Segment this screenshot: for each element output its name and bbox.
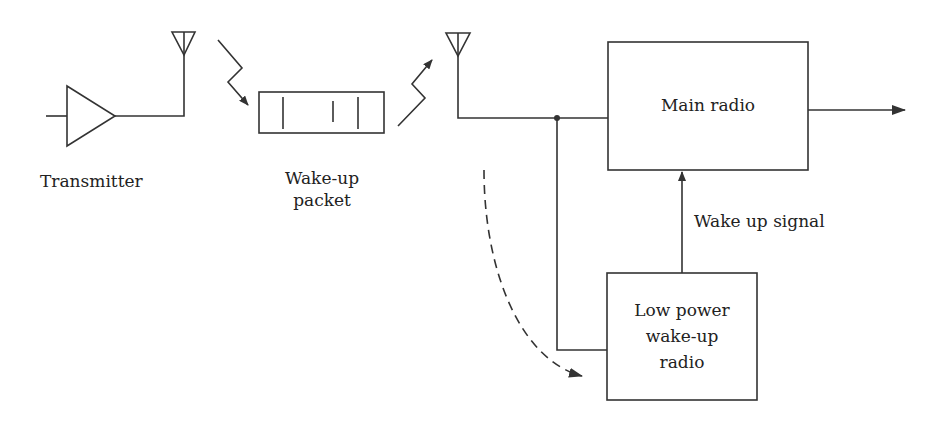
rx-to-low-power-radio-line — [557, 118, 607, 350]
main-radio-label: Main radio — [661, 95, 755, 115]
transmitter-label: Transmitter — [40, 171, 144, 191]
wakeup-packet: Wake-up packet — [259, 92, 384, 210]
main-radio: Main radio — [608, 42, 808, 170]
wakeup-signal-label: Wake up signal — [694, 211, 825, 231]
low-power-radio-label-line2: wake-up — [646, 326, 719, 346]
amplifier-icon — [67, 86, 115, 146]
transmitter-to-antenna-line — [115, 55, 184, 116]
wakeup-packet-label-line2: packet — [293, 190, 351, 210]
wake-up-radio-diagram: Transmitter Wake-up packet Main radio Wa… — [0, 0, 940, 421]
rx-wireless-zigzag-arrow — [398, 60, 432, 126]
packet-box — [259, 92, 384, 133]
wakeup-packet-label-line1: Wake-up — [285, 168, 359, 188]
low-power-radio: Low power wake-up radio — [607, 273, 757, 400]
low-power-radio-label-line3: radio — [660, 352, 705, 372]
dashed-flow-arrow — [484, 170, 582, 376]
tx-wireless-zigzag-arrow — [218, 40, 248, 105]
transmitter: Transmitter — [40, 32, 195, 191]
rx-antenna-icon — [446, 33, 470, 56]
low-power-radio-label-line1: Low power — [634, 300, 730, 320]
tx-antenna-icon — [172, 32, 195, 55]
rx-to-main-radio-line — [458, 56, 608, 118]
